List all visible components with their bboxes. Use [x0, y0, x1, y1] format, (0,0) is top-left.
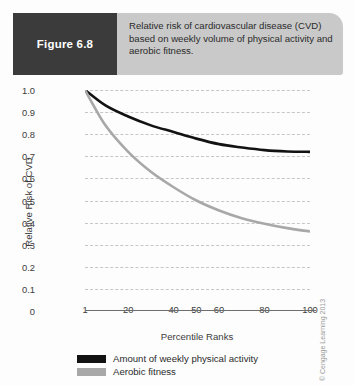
legend-label: Aerobic fitness [113, 366, 176, 377]
figure-header: Figure 6.8 Relative risk of cardiovascul… [13, 13, 343, 75]
copyright-credit: © Cengage Learning 2013 [319, 299, 326, 381]
y-axis-tick: 0.2 [0, 261, 35, 272]
y-axis-tick: 0 [0, 306, 35, 317]
legend-swatch [77, 355, 106, 363]
figure-caption: Relative risk of cardiovascular disease … [129, 20, 335, 58]
legend: Amount of weekly physical activityAerobi… [77, 352, 258, 378]
legend-item: Aerobic fitness [77, 365, 258, 378]
y-axis-tick: 0.4 [0, 217, 35, 228]
chart-area: Relative Risk of CVD Percentile Ranks © … [0, 78, 354, 326]
series-curves [85, 90, 310, 311]
legend-label: Amount of weekly physical activity [113, 353, 258, 364]
x-axis-label: Percentile Ranks [161, 331, 234, 342]
plot-region [85, 90, 310, 311]
y-axis-tick: 0.1 [0, 283, 35, 294]
y-axis-tick: 1.0 [0, 85, 35, 96]
y-axis-tick: 0.8 [0, 129, 35, 140]
figure-number-label: Figure 6.8 [37, 38, 93, 50]
y-axis-tick: 0.3 [0, 239, 35, 250]
y-axis-tick: 0.9 [0, 107, 35, 118]
y-axis-tick: 0.7 [0, 151, 35, 162]
legend-item: Amount of weekly physical activity [77, 352, 258, 365]
figure-card: Figure 6.8 Relative risk of cardiovascul… [0, 0, 354, 385]
y-axis-tick: 0.6 [0, 173, 35, 184]
figure-number-badge: Figure 6.8 [13, 13, 117, 75]
legend-swatch [77, 368, 106, 376]
y-axis-tick: 0.5 [0, 195, 35, 206]
